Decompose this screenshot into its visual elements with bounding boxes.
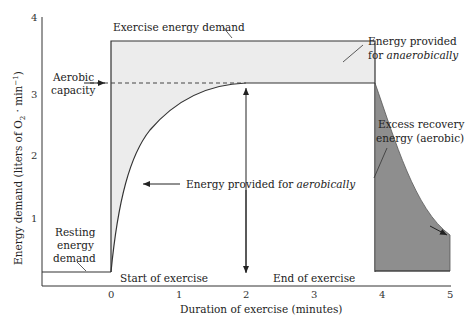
resting-label-3: demand xyxy=(53,252,96,264)
x-tick: 1 xyxy=(176,289,182,300)
y-tick: 4 xyxy=(31,12,37,23)
anaerobic-label-1: Energy provided xyxy=(368,35,457,47)
y-tick: 3 xyxy=(31,89,37,100)
x-tick: 4 xyxy=(379,289,385,300)
resting-label-1: Resting xyxy=(55,226,96,238)
aerobic-label: Energy provided for aerobically xyxy=(186,178,356,190)
recovery-label-1: Excess recovery xyxy=(378,118,464,130)
x-tick: 0 xyxy=(108,289,114,300)
x-tick: 5 xyxy=(447,289,453,300)
x-axis-label: Duration of exercise (minutes) xyxy=(180,303,342,315)
y-tick: 2 xyxy=(31,150,37,161)
aerobic-capacity-label-2: capacity xyxy=(51,84,96,96)
recovery-label-2: energy (aerobic) xyxy=(376,132,464,144)
x-tick: 2 xyxy=(243,289,249,300)
x-tick: 3 xyxy=(311,289,317,300)
recovery-area xyxy=(375,83,450,271)
end-label: End of exercise xyxy=(273,272,355,284)
exercise-demand-label: Exercise energy demand xyxy=(113,21,245,33)
aerobic-capacity-label-1: Aerobic xyxy=(52,71,94,83)
chart: 4 3 2 1 0 1 2 3 4 5 Duration of exercise… xyxy=(0,0,465,323)
start-label: Start of exercise xyxy=(120,272,208,284)
y-tick: 1 xyxy=(31,213,37,224)
resting-label-2: energy xyxy=(57,239,94,251)
y-axis-label: Energy demand (liters of O2 · min−1) xyxy=(12,71,27,265)
anaerobic-deficit-area xyxy=(111,41,375,272)
anaerobic-label-2: for anaerobically xyxy=(368,49,459,61)
